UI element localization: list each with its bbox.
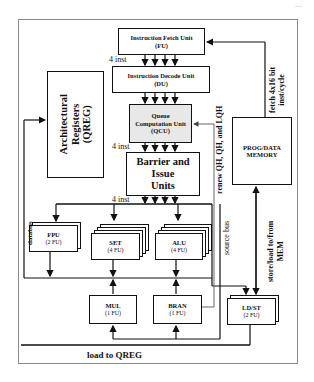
qcu-abbr: (QCU) xyxy=(151,127,170,134)
qreg-line3: (QREG) xyxy=(81,94,93,154)
store-label-line1: store/load to/from xyxy=(266,221,276,282)
queue-computation-unit: Queue Computation Unit (QCU) xyxy=(129,104,192,143)
label-fetch-bandwidth: fetch 4x16 bit inst/cycle xyxy=(268,67,286,113)
fpu-count: (2 FU) xyxy=(45,239,61,246)
fetch-unit-name: Instruction Fetch Unit xyxy=(130,34,192,41)
label-source-bus: source bus xyxy=(222,221,231,255)
barrier-and-issue-units: Barrier and Issue Units xyxy=(126,152,200,196)
instruction-decode-unit: Instruction Decode Unit (DU) xyxy=(112,66,210,93)
ldst-unit: LD/ST (2 FU) xyxy=(227,298,276,325)
label-renew-qh: renew QH, QH, and LQH xyxy=(215,106,224,194)
decode-unit-abbr: (DU) xyxy=(154,80,168,87)
qcu-line1: Queue xyxy=(151,112,169,119)
label-store-load-mem: store/load to/from MEM xyxy=(266,221,285,282)
alu-name: ALU xyxy=(172,239,186,246)
mul-count: (1 FU) xyxy=(105,310,121,317)
label-4-inst-fu-du: 4 inst xyxy=(109,55,127,64)
label-4-inst-barrier-fus: 4 inst xyxy=(112,195,130,204)
memory-line1: PROG/DATA xyxy=(243,144,281,151)
prog-data-memory: PROG/DATA MEMORY xyxy=(232,117,292,185)
memory-line2: MEMORY xyxy=(247,151,278,158)
barrier-line3: Units xyxy=(151,180,175,192)
qreg-line2: Registers xyxy=(70,94,82,154)
set-unit: SET (4 FU) xyxy=(91,233,140,260)
mul-unit: MUL (1 FU) xyxy=(89,295,137,324)
qcu-line2: Computation Unit xyxy=(135,120,186,127)
alu-count: (4 FU) xyxy=(171,247,187,254)
barrier-line2: Issue xyxy=(152,168,175,180)
processor-architecture-diagram: --- xyxy=(0,0,314,382)
bran-count: (1 FU) xyxy=(169,310,185,317)
ldst-name: LD/ST xyxy=(242,304,261,311)
set-name: SET xyxy=(109,239,121,246)
label-databus: databus xyxy=(26,221,34,245)
alu-unit: ALU (4 FU) xyxy=(155,233,203,260)
barrier-line1: Barrier and xyxy=(136,156,189,168)
store-label-line2: MEM xyxy=(276,221,286,282)
fpu-unit: FPU (2 FU) xyxy=(29,225,78,252)
decode-unit-name: Instruction Decode Unit xyxy=(128,72,195,79)
fpu-name: FPU xyxy=(47,231,60,238)
mul-name: MUL xyxy=(105,302,120,309)
qreg-line1: Architectural xyxy=(58,94,70,154)
fetch-unit-abbr: (FU) xyxy=(155,42,168,49)
instruction-fetch-unit: Instruction Fetch Unit (FU) xyxy=(118,28,205,55)
fetch-label-line1: fetch 4x16 bit xyxy=(268,67,277,113)
ldst-count: (2 FU) xyxy=(243,312,259,319)
label-4-inst-qcu-barrier: 4 inst xyxy=(112,142,130,151)
bran-name: BRAN xyxy=(168,302,186,309)
set-count: (4 FU) xyxy=(107,247,123,254)
label-load-to-qreg: load to QREG xyxy=(87,350,142,360)
bran-unit: BRAN (1 FU) xyxy=(153,295,202,324)
fetch-label-line2: inst/cycle xyxy=(277,67,286,113)
architectural-registers-qreg: Architectural Registers (QREG) xyxy=(47,71,104,178)
